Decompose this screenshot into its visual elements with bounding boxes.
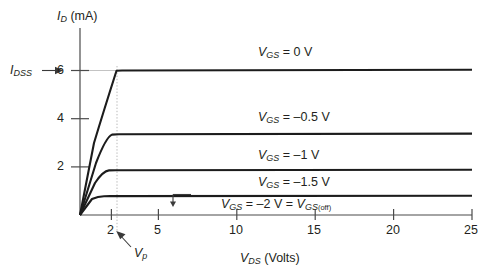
vgs-off-qualifier: (off) bbox=[318, 203, 331, 212]
curve-label-vgs-minus-1-value: = –1 V bbox=[279, 148, 319, 162]
y-axis-title-unit: (mA) bbox=[67, 9, 98, 23]
x-axis-title-unit: (Volts) bbox=[261, 251, 300, 265]
x-tick-label-5: 5 bbox=[154, 224, 161, 237]
curve-label-vgs-minus-1-5-value: = –1.5 V bbox=[279, 175, 329, 189]
curve-label-vgs-0-subscript: GS bbox=[266, 50, 279, 60]
curve-label-vgs-0: VGS = 0 V bbox=[258, 46, 312, 59]
vp-marker-label: Vp bbox=[134, 247, 147, 260]
curve-label-vgs-minus-0-5-value: = –0.5 V bbox=[279, 110, 329, 124]
vp-subscript: p bbox=[142, 251, 147, 261]
curve-label-vgs-minus-1-5-subscript: GS bbox=[266, 180, 279, 190]
x-tick-label-2: 2 bbox=[107, 224, 114, 237]
curve-label-vgs-minus-2-value: = –2 V = bbox=[242, 197, 296, 211]
x-tick-label-25: 25 bbox=[464, 224, 478, 237]
curve-label-vgs-minus-0-5: VGS = –0.5 V bbox=[258, 111, 330, 124]
vp-arrow-head bbox=[116, 231, 125, 239]
curve-label-vgs-minus-2-subscript: GS bbox=[229, 202, 242, 212]
curve-label-vgs-minus-0-5-subscript: GS bbox=[266, 115, 279, 125]
vgs-off-subscript: GS bbox=[305, 202, 318, 212]
x-tick-label-10: 10 bbox=[229, 224, 243, 237]
x-axis-title-subscript: DS bbox=[248, 256, 261, 266]
x-axis-title: VDS (Volts) bbox=[240, 252, 300, 265]
curve-label-vgs-minus-1-subscript: GS bbox=[266, 153, 279, 163]
jfet-drain-characteristics-figure: ID (mA) VDS (Volts) 6 4 2 2 5 10 15 20 2… bbox=[0, 0, 496, 278]
vgs-off-symbol: V bbox=[297, 197, 305, 211]
curve-label-vgs-0-value: = 0 V bbox=[279, 45, 312, 59]
y-tick-label-4: 4 bbox=[57, 112, 64, 125]
curve-label-vgs-minus-2: VGS = –2 V = VGS(off) bbox=[221, 198, 331, 211]
y-axis-title: ID (mA) bbox=[57, 10, 98, 23]
characteristic-curves-plot bbox=[0, 0, 496, 278]
idss-marker-label: IDSS bbox=[10, 64, 32, 77]
y-tick-label-6: 6 bbox=[57, 64, 64, 77]
curve-label-vgs-minus-1-5: VGS = –1.5 V bbox=[258, 176, 330, 189]
y-axis-title-subscript: D bbox=[60, 14, 67, 24]
x-tick-label-20: 20 bbox=[386, 224, 400, 237]
idss-subscript: DSS bbox=[13, 68, 32, 78]
x-tick-label-15: 15 bbox=[307, 224, 321, 237]
y-tick-label-2: 2 bbox=[57, 160, 64, 173]
curve-label-vgs-minus-1: VGS = –1 V bbox=[258, 149, 319, 162]
curve-vgs-0 bbox=[80, 70, 472, 215]
vgs-off-arrow-head bbox=[170, 202, 176, 208]
